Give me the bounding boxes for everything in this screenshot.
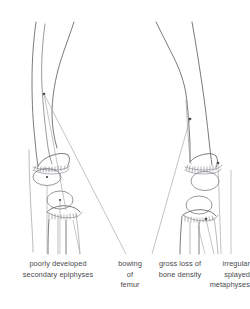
- right-femur-medial-contour: [156, 22, 190, 162]
- label-line: metaphyses: [198, 280, 250, 291]
- left-distal-femur-flare: [38, 154, 68, 167]
- label-bowing-of-femur: bowing of femur: [108, 259, 152, 291]
- right-distal-femoral-epiphysis: [191, 172, 219, 191]
- label-line: irregular: [198, 259, 250, 270]
- label-line: secondary epiphyses: [6, 270, 110, 281]
- left-calf-lateral-contour: [29, 150, 33, 252]
- left-patella-marker: [46, 176, 48, 178]
- left-distal-femur-flare-medial: [68, 155, 70, 165]
- stem-left-metaphysis: [73, 220, 80, 254]
- left-thigh-lateral-contour: [32, 22, 38, 166]
- label-line: femur: [108, 280, 152, 291]
- label-line: poorly developed: [6, 259, 110, 270]
- label-stems: [47, 170, 231, 254]
- label-line: bowing: [108, 259, 152, 270]
- left-distal-femoral-metaphysis-fraying: [33, 165, 70, 174]
- left-femur-medial-contour: [52, 22, 74, 148]
- label-line: of: [108, 270, 152, 281]
- left-tibia-shaft-lateral: [48, 219, 49, 254]
- leader-lines: [44, 94, 221, 254]
- leader-irregular-metaphyses-femoral: [218, 163, 221, 254]
- label-irregular-splayed-metaphyses: irregular splayed metaphyses: [198, 259, 250, 291]
- leader-irregular-metaphyses-tibial: [206, 219, 214, 254]
- label-poorly-developed-secondary-epiphyses: poorly developed secondary epiphyses: [6, 259, 110, 280]
- right-distal-femur-flare-lateral: [216, 156, 218, 167]
- right-fibula-head: [214, 218, 218, 254]
- annotation-labels: poorly developed secondary epiphyses bow…: [0, 259, 250, 309]
- right-thigh-lateral-contour: [192, 22, 212, 165]
- right-distal-femur-flare: [190, 154, 216, 162]
- right-tibia-shaft-medial: [180, 216, 182, 254]
- right-proximal-tibia-plateau: [183, 210, 216, 216]
- right-proximal-tibial-metaphysis-fraying: [183, 215, 218, 222]
- right-limb: [156, 22, 222, 254]
- label-line: splayed: [198, 270, 250, 281]
- leader-gross-loss-bone-density: [152, 119, 190, 254]
- left-fibula-head: [76, 215, 80, 254]
- left-limb: [29, 22, 82, 254]
